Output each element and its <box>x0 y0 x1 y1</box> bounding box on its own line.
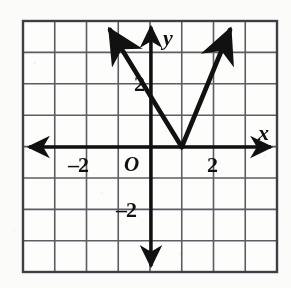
x-tick-label-negative-two: –2 <box>68 152 88 178</box>
origin-label: O <box>124 152 139 177</box>
coordinate-plane-svg <box>0 0 291 288</box>
y-tick-label-negative-two: –2 <box>116 197 136 223</box>
x-axis-label: x <box>258 120 269 146</box>
graph-figure: y x O –2 2 2 –2 <box>0 0 291 288</box>
y-axis-label: y <box>163 25 173 51</box>
y-tick-label-positive-two: 2 <box>134 71 145 97</box>
x-tick-label-positive-two: 2 <box>207 152 218 178</box>
